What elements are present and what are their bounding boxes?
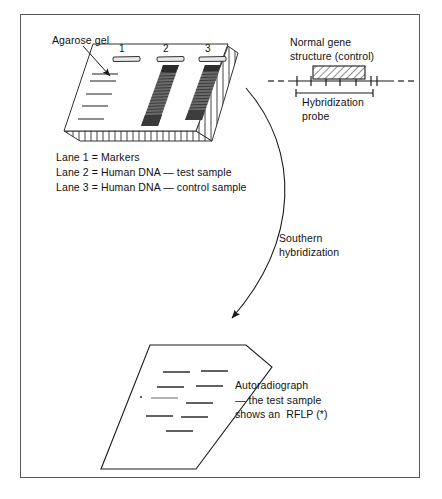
well-lane-3 xyxy=(199,57,226,62)
lane-2-top-dense xyxy=(161,65,179,72)
figure-root: Agarose gel 1 2 3 Lane 1 = Markers Lane … xyxy=(0,0,442,499)
southern-hybridization-label: Southern hybridization xyxy=(279,232,339,259)
gel-front-edge xyxy=(64,131,212,141)
well-lane-1 xyxy=(113,57,140,62)
lane-3-top-dense xyxy=(203,65,221,71)
well-lane-2 xyxy=(157,57,184,62)
gene-structure-map xyxy=(268,66,414,97)
lane-number-1: 1 xyxy=(119,43,125,54)
hybridization-probe-label: Hybridization probe xyxy=(302,96,364,123)
southern-hybridization-arrow xyxy=(232,88,285,318)
figure-artwork xyxy=(0,0,442,499)
agarose-gel-label: Agarose gel xyxy=(52,34,109,48)
normal-gene-structure-label: Normal gene structure (control) xyxy=(290,36,374,63)
gene-box xyxy=(313,66,365,79)
gel-wells xyxy=(113,57,226,62)
lane-number-3: 3 xyxy=(205,43,211,54)
autoradiograph-label: Autoradiograph — the test sample shows a… xyxy=(235,378,328,422)
gel-lane-legend: Lane 1 = Markers Lane 2 = Human DNA — te… xyxy=(56,150,247,195)
rflp-asterisk-marker xyxy=(140,396,142,398)
lane-number-2: 2 xyxy=(163,43,169,54)
